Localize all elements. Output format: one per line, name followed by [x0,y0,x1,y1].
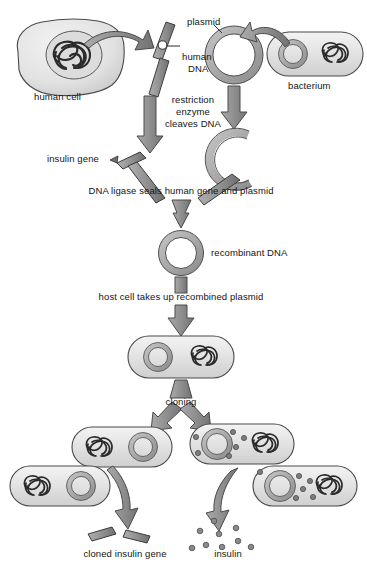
cloned-gene-rod-right [123,530,150,543]
label-human-dna-line1: human [182,51,212,63]
label-restriction-line2: enzyme [176,106,210,118]
label-restriction-line1: restriction [172,94,214,106]
label-cloning: cloning [166,396,197,408]
label-human-dna-line2: DNA [188,63,208,75]
label-recombinant-dna: recombinant DNA [211,247,287,259]
label-restriction-line3: cleaves DNA [165,118,221,130]
label-plasmid: plasmid [187,16,220,28]
label-human-cell: human cell [34,91,81,103]
insulin-bacterium-right-upper [190,424,294,464]
label-host-cell: host cell takes up recombined plasmid [99,291,264,303]
human-chromosome-shape [149,22,180,97]
clone-bacterium-left-upper [72,427,172,467]
arrow-to-host-cell-b [168,305,194,336]
arrow-restriction-left [137,96,163,153]
arrow-restriction-right [221,86,247,129]
insulin-bacterium-right-lower [253,466,357,506]
ligation-connector-left [128,162,165,203]
label-insulin-gene: insulin gene [47,153,99,165]
recombinant-dna-ring [159,231,204,276]
human-cell-shape [17,19,124,95]
label-insulin: insulin [214,548,242,560]
label-cloned-insulin-gene: cloned insulin gene [83,548,166,560]
label-bacterium: bacterium [288,80,331,92]
arrow-bacterium-to-plasmid [240,22,290,47]
cloned-gene-rod-left [88,527,116,541]
host-cell-shape [128,336,234,378]
clone-bacterium-left-lower [10,466,110,506]
arrow-cloned-gene-curve [107,466,138,529]
arrow-insulin-curve [206,468,238,531]
arrow-to-recombinant-dna [172,200,191,228]
label-dna-ligase: DNA ligase seals human gene and plasmid [88,185,273,197]
